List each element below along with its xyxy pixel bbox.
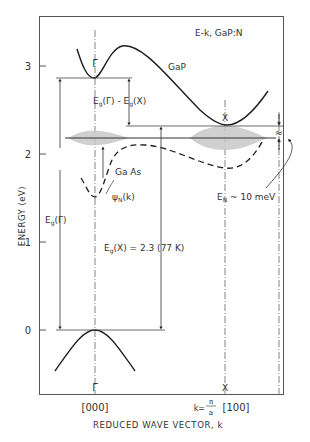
k-prefix-label: k= bbox=[194, 404, 205, 413]
plot-frame bbox=[40, 17, 284, 395]
y-ticks bbox=[39, 66, 46, 330]
x-top-label: X bbox=[222, 113, 228, 123]
gap-label: GaP bbox=[168, 62, 186, 72]
pi-label: π bbox=[209, 398, 214, 406]
band-diagram: 3 2 1 0 ENERGY (eV) ≈ E-k, GaP:N GaP Γ X… bbox=[0, 0, 310, 442]
a-label: a bbox=[209, 409, 213, 417]
gaas-label: Ga As bbox=[115, 167, 142, 177]
psi-label: ψN(k) bbox=[112, 192, 135, 203]
x-axis-label: REDUCED WAVE VECTOR, k bbox=[93, 420, 223, 430]
gamma-index-label: [000] bbox=[82, 402, 109, 413]
eg-diff-label: Eg(Γ) - Eg(X) bbox=[93, 96, 146, 108]
figure-title: E-k, GaP:N bbox=[195, 28, 243, 38]
gamma-top-label: Γ bbox=[92, 58, 98, 69]
eg-x-label: Eg(X) = 2.3 (77 K) bbox=[104, 243, 184, 255]
y-axis-label: ENERGY (eV) bbox=[17, 186, 27, 246]
y-tick-3: 3 bbox=[25, 61, 31, 72]
y-tick-0: 0 bbox=[25, 325, 31, 336]
x-index-label: [100] bbox=[223, 402, 250, 413]
eg-gamma-label: Eg(Γ) bbox=[45, 215, 67, 227]
x-bottom-label: X bbox=[222, 383, 228, 393]
gaas-conduction-band bbox=[81, 142, 262, 197]
gap-conduction-band bbox=[77, 46, 268, 125]
break-mark: ≈ bbox=[275, 127, 283, 138]
en-label: EN ~ 10 meV bbox=[217, 192, 276, 203]
gamma-bottom-label: Γ bbox=[92, 382, 98, 393]
y-tick-2: 2 bbox=[25, 149, 31, 160]
